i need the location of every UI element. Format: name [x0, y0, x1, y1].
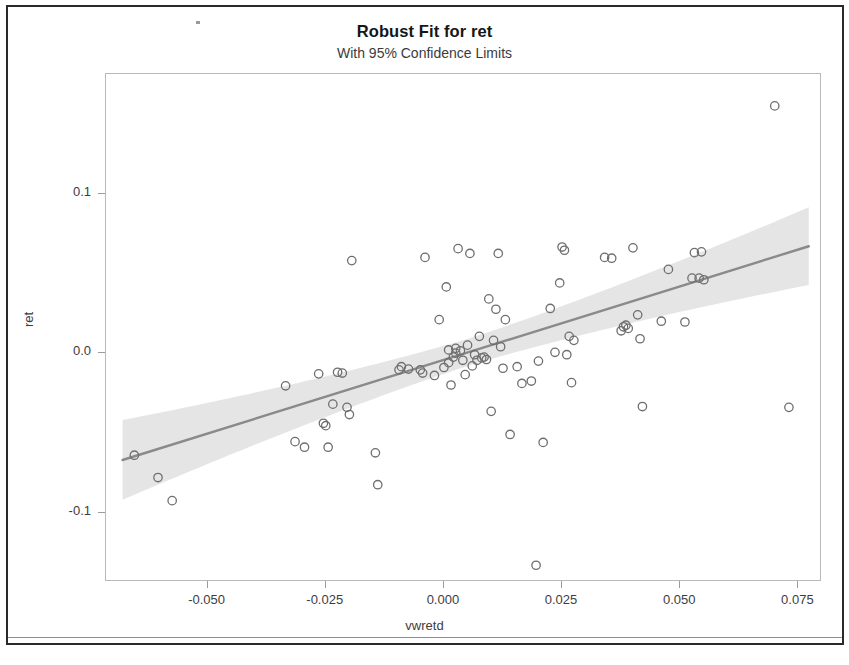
scatter-point	[487, 407, 495, 415]
scatter-point	[636, 335, 644, 343]
x-axis-title: vwretd	[0, 618, 849, 633]
x-tick-label: 0.075	[762, 592, 832, 607]
x-tick-label: 0.050	[644, 592, 714, 607]
scatter-point	[324, 443, 332, 451]
scatter-point	[168, 496, 176, 504]
scatter-point	[345, 410, 353, 418]
chart-page: Robust Fit for ret With 95% Confidence L…	[0, 0, 849, 665]
scatter-point	[527, 377, 535, 385]
x-tick-label: -0.050	[172, 592, 242, 607]
scatter-point	[638, 402, 646, 410]
scatter-point	[532, 561, 540, 569]
scatter-point	[567, 378, 575, 386]
y-tick-label: 0.1	[39, 184, 91, 199]
scatter-point	[506, 430, 514, 438]
scatter-point	[447, 381, 455, 389]
x-tick-mark	[207, 581, 208, 588]
scatter-point	[657, 317, 665, 325]
scatter-point	[499, 364, 507, 372]
scatter-point	[771, 102, 779, 110]
scatter-point	[421, 253, 429, 261]
y-tick-label: 0.0	[39, 343, 91, 358]
y-tick-mark	[98, 193, 105, 194]
scatter-point	[435, 315, 443, 323]
document-bottom-rule	[8, 637, 842, 638]
x-tick-mark	[325, 581, 326, 588]
scatter-points	[130, 102, 793, 570]
scatter-point	[513, 362, 521, 370]
chart-subtitle: With 95% Confidence Limits	[0, 45, 849, 61]
scatter-point	[494, 249, 502, 257]
x-tick-label: 0.000	[408, 592, 478, 607]
x-tick-mark	[561, 581, 562, 588]
scatter-point	[374, 481, 382, 489]
scatter-point	[319, 419, 327, 427]
scatter-point	[492, 305, 500, 313]
x-tick-label: -0.025	[290, 592, 360, 607]
scatter-point	[534, 357, 542, 365]
scatter-point	[348, 256, 356, 264]
x-tick-mark	[679, 581, 680, 588]
scatter-point	[466, 249, 474, 257]
scatter-plot-svg	[106, 74, 821, 581]
scatter-point	[322, 421, 330, 429]
scatter-point	[629, 244, 637, 252]
scatter-point	[485, 295, 493, 303]
scatter-point	[681, 318, 689, 326]
scatter-point	[518, 379, 526, 387]
y-tick-mark	[98, 352, 105, 353]
robust-fit-line	[123, 246, 809, 460]
scatter-point	[539, 438, 547, 446]
x-tick-mark	[443, 581, 444, 588]
scatter-point	[551, 348, 559, 356]
y-axis-title: ret	[21, 290, 36, 350]
plot-area	[105, 73, 821, 581]
scatter-point	[501, 315, 509, 323]
scatter-point	[300, 443, 308, 451]
x-tick-label: 0.025	[526, 592, 596, 607]
scatter-point	[454, 244, 462, 252]
y-tick-label: -0.1	[39, 503, 91, 518]
scatter-point	[442, 283, 450, 291]
scatter-point	[563, 351, 571, 359]
scatter-point	[785, 403, 793, 411]
x-tick-mark	[797, 581, 798, 588]
page-title: Robust Fit for ret	[0, 22, 849, 41]
y-tick-mark	[98, 512, 105, 513]
scatter-point	[291, 437, 299, 445]
scatter-point	[556, 279, 564, 287]
scatter-point	[461, 370, 469, 378]
scatter-point	[371, 449, 379, 457]
scatter-point	[314, 370, 322, 378]
